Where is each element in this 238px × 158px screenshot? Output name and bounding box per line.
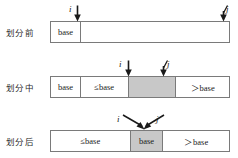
partition-diagram: 划分前 base i j 划分中 base ≤base ＞base i	[0, 0, 238, 158]
array-cell-base: base	[51, 22, 81, 42]
array-cell-base: base	[131, 131, 164, 151]
stage-label-before: 划分前	[6, 29, 34, 38]
pointer-label-i-after: i	[117, 115, 120, 124]
pointer-label-i-during: i	[119, 60, 122, 69]
pointer-arrow-j-before	[218, 5, 230, 22]
array-cell-gt-base: ＞base	[163, 131, 229, 151]
array-cell-unexamined	[129, 77, 177, 97]
stage-label-after: 划分后	[6, 138, 34, 147]
pointer-arrow-i-during	[124, 60, 133, 77]
array-bar-before: base	[50, 21, 230, 43]
pointer-arrow-j-after	[142, 114, 166, 131]
array-cell-le-base: ≤base	[81, 77, 129, 97]
array-cell-gt-base: ＞base	[176, 77, 229, 97]
array-bar-during: base ≤base ＞base	[50, 76, 230, 98]
pointer-arrow-i-before	[73, 5, 82, 22]
array-cell-base: base	[51, 77, 81, 97]
stage-label-during: 划分中	[6, 84, 34, 93]
array-bar-after: ≤base base ＞base	[50, 130, 230, 152]
pointer-arrow-j-during	[158, 60, 170, 77]
array-cell-unpartitioned	[81, 22, 229, 42]
array-cell-le-base: ≤base	[51, 131, 131, 151]
pointer-label-i-before: i	[69, 5, 72, 14]
